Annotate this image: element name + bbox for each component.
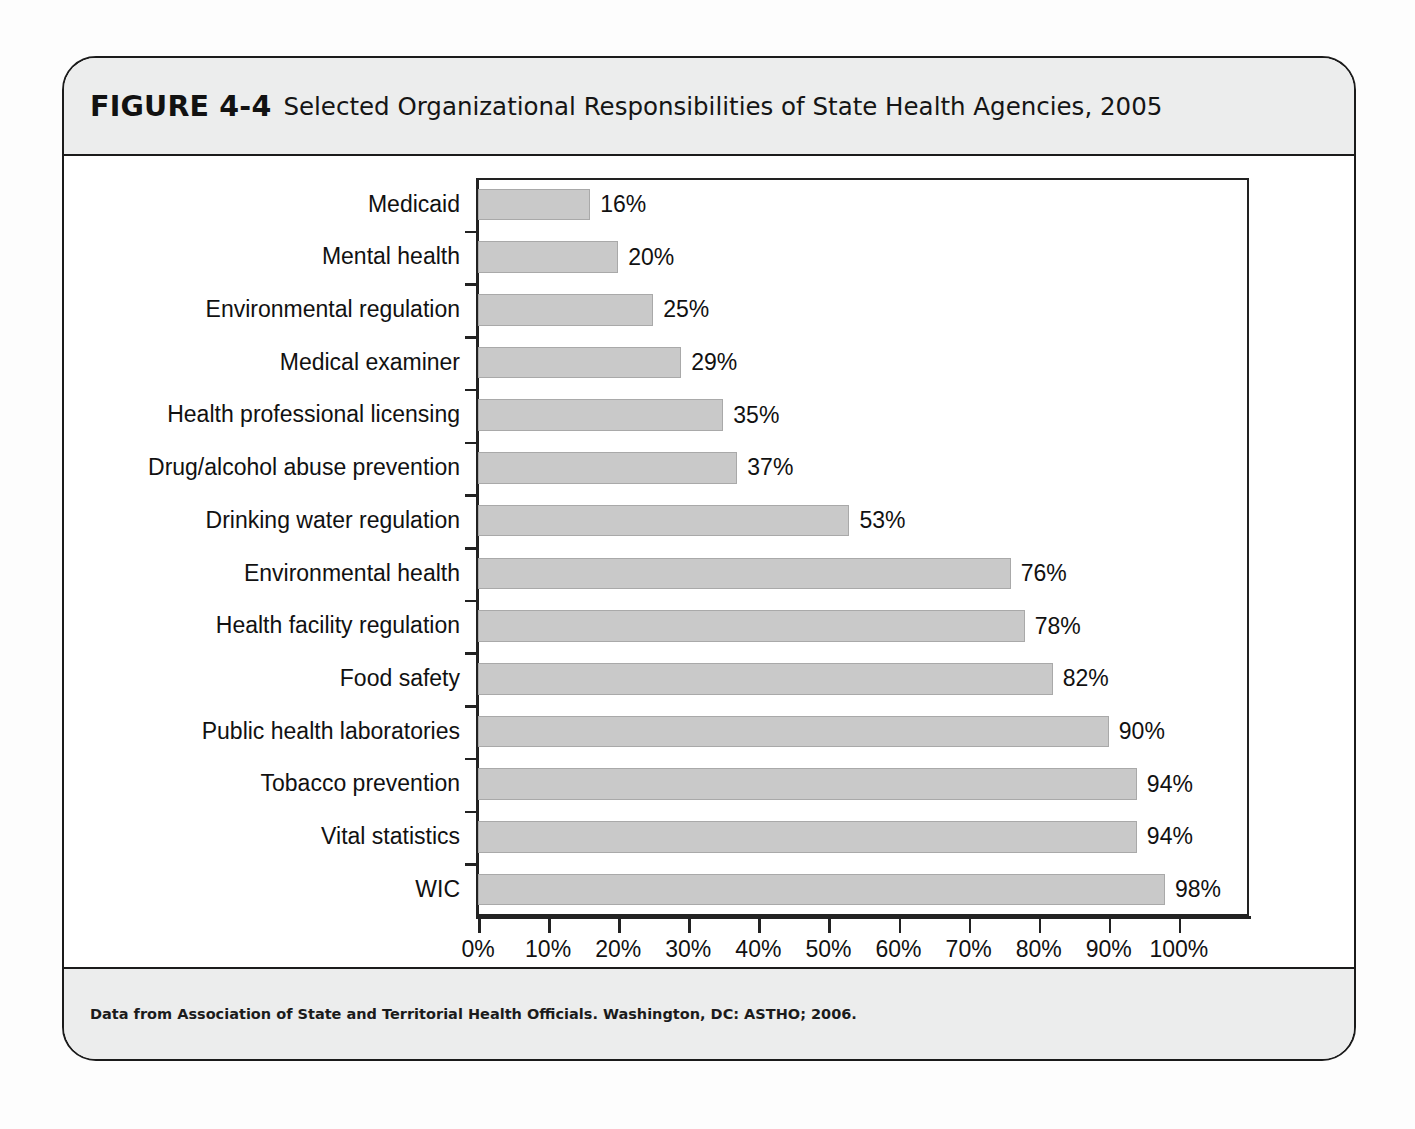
bar-value-label: 98% xyxy=(1175,876,1221,903)
bar xyxy=(478,874,1165,906)
category-label: Environmental regulation xyxy=(64,294,460,326)
bar-value-label: 35% xyxy=(733,402,779,429)
x-axis-tick xyxy=(899,918,902,933)
x-axis-tick-label: 40% xyxy=(735,936,781,963)
bar-with-value: 37% xyxy=(478,452,793,484)
y-axis-tick xyxy=(465,336,478,339)
x-axis-tick-label: 60% xyxy=(876,936,922,963)
x-axis-tick xyxy=(1109,918,1112,933)
category-label: WIC xyxy=(64,874,460,906)
figure-source-band: Data from Association of State and Terri… xyxy=(64,967,1354,1059)
x-axis-tick xyxy=(758,918,761,933)
bar xyxy=(478,716,1109,748)
bar-with-value: 76% xyxy=(478,558,1067,590)
bar xyxy=(478,294,653,326)
bar-with-value: 35% xyxy=(478,399,779,431)
category-label: Drinking water regulation xyxy=(64,505,460,537)
bar-with-value: 25% xyxy=(478,294,709,326)
bar xyxy=(478,452,737,484)
bar-value-label: 78% xyxy=(1035,613,1081,640)
figure-title: Selected Organizational Responsibilities… xyxy=(283,92,1162,121)
x-axis-line xyxy=(476,916,1251,919)
bar-value-label: 16% xyxy=(600,191,646,218)
x-axis-tick-label: 30% xyxy=(665,936,711,963)
bar xyxy=(478,399,723,431)
category-label: Health facility regulation xyxy=(64,610,460,642)
x-axis-tick-label: 0% xyxy=(461,936,494,963)
y-axis-tick xyxy=(465,863,478,866)
bar xyxy=(478,558,1011,590)
bar-with-value: 53% xyxy=(478,505,906,537)
bar-row: Medicaid16% xyxy=(64,189,1354,221)
bar-row: Food safety82% xyxy=(64,663,1354,695)
category-label: Medical examiner xyxy=(64,347,460,379)
bar-with-value: 82% xyxy=(478,663,1109,695)
category-label: Environmental health xyxy=(64,558,460,590)
bar-value-label: 82% xyxy=(1063,665,1109,692)
y-axis-tick xyxy=(465,389,478,392)
x-axis-tick xyxy=(548,918,551,933)
bar-row: Tobacco prevention94% xyxy=(64,768,1354,800)
category-label: Food safety xyxy=(64,663,460,695)
y-axis-tick xyxy=(465,547,478,550)
bar-row: Health professional licensing35% xyxy=(64,399,1354,431)
bar-value-label: 76% xyxy=(1021,560,1067,587)
category-label: Public health laboratories xyxy=(64,716,460,748)
x-axis-tick xyxy=(1179,918,1182,933)
y-axis-tick xyxy=(465,442,478,445)
y-axis-tick xyxy=(465,600,478,603)
x-axis-tick-label: 90% xyxy=(1086,936,1132,963)
category-label: Mental health xyxy=(64,241,460,273)
bar-with-value: 16% xyxy=(478,189,646,221)
bar-row: Drug/alcohol abuse prevention37% xyxy=(64,452,1354,484)
bar-with-value: 98% xyxy=(478,874,1221,906)
bar xyxy=(478,189,590,221)
figure-number: FIGURE 4-4 xyxy=(90,90,271,123)
x-axis-tick xyxy=(828,918,831,933)
category-label: Medicaid xyxy=(64,189,460,221)
bar-row: Mental health20% xyxy=(64,241,1354,273)
bar-with-value: 94% xyxy=(478,821,1193,853)
bar-with-value: 90% xyxy=(478,716,1165,748)
x-axis-tick-label: 10% xyxy=(525,936,571,963)
bar-row: Medical examiner29% xyxy=(64,347,1354,379)
bar-with-value: 78% xyxy=(478,610,1081,642)
source-citation: Data from Association of State and Terri… xyxy=(90,1006,857,1022)
x-axis-tick xyxy=(478,918,481,933)
bar-row: Environmental regulation25% xyxy=(64,294,1354,326)
category-label: Drug/alcohol abuse prevention xyxy=(64,452,460,484)
bar xyxy=(478,663,1053,695)
y-axis-tick xyxy=(465,494,478,497)
bar-value-label: 37% xyxy=(747,454,793,481)
x-axis-tick-label: 80% xyxy=(1016,936,1062,963)
y-axis-tick xyxy=(465,231,478,234)
x-axis-tick xyxy=(688,918,691,933)
bar-rows: Medicaid16%Mental health20%Environmental… xyxy=(64,178,1354,916)
figure-page: FIGURE 4-4 Selected Organizational Respo… xyxy=(0,0,1415,1129)
bar xyxy=(478,505,849,537)
figure-title-band: FIGURE 4-4 Selected Organizational Respo… xyxy=(64,58,1354,156)
x-axis-tick-label: 20% xyxy=(595,936,641,963)
bar-row: Health facility regulation78% xyxy=(64,610,1354,642)
y-axis-tick xyxy=(465,811,478,814)
bar xyxy=(478,347,681,379)
y-axis-tick xyxy=(465,705,478,708)
x-axis-tick xyxy=(969,918,972,933)
bar xyxy=(478,768,1137,800)
bar-value-label: 94% xyxy=(1147,771,1193,798)
bar xyxy=(478,821,1137,853)
bar-row: WIC98% xyxy=(64,874,1354,906)
bar-with-value: 94% xyxy=(478,768,1193,800)
bar-row: Drinking water regulation53% xyxy=(64,505,1354,537)
bar-value-label: 94% xyxy=(1147,823,1193,850)
bar-row: Public health laboratories90% xyxy=(64,716,1354,748)
y-axis-tick xyxy=(465,758,478,761)
x-axis-tick-label: 100% xyxy=(1149,936,1208,963)
bar-value-label: 53% xyxy=(859,507,905,534)
chart-area: Medicaid16%Mental health20%Environmental… xyxy=(64,156,1354,967)
figure-frame: FIGURE 4-4 Selected Organizational Respo… xyxy=(62,56,1356,1061)
bar-with-value: 29% xyxy=(478,347,737,379)
bar-value-label: 25% xyxy=(663,296,709,323)
y-axis-tick xyxy=(465,283,478,286)
bar-with-value: 20% xyxy=(478,241,674,273)
